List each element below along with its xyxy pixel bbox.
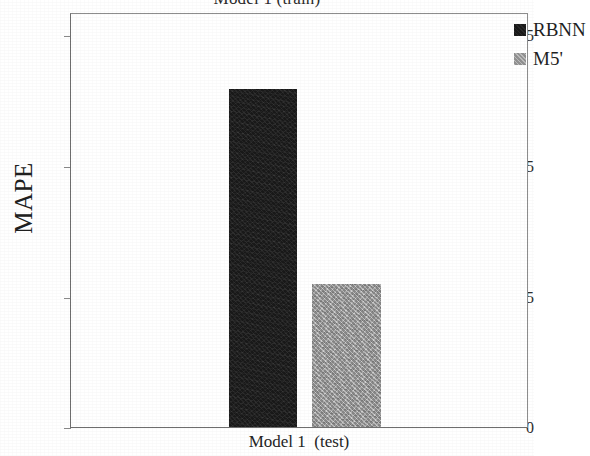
legend-item-rbnn: RBNN [448,15,590,44]
chart-legend: RBNN M5' [448,15,590,73]
x-axis-title: Model 1 (test) [70,432,528,452]
dark-swatch-icon [514,24,526,36]
legend-item-m5-label: M5' [533,49,563,68]
chart-title: Model 1 (train) [0,0,534,9]
bar-m5 [312,284,381,427]
legend-item-rbnn-label: RBNN [533,20,586,39]
legend-item-m5: M5' [448,44,590,73]
bar-rbnn [229,89,297,427]
plot-frame: RBNN M5' [70,13,528,428]
y-axis-tick-mark-0 [64,428,71,429]
y-axis-title: MAPE [10,138,38,258]
gray-swatch-icon [514,53,526,65]
plot-area [71,14,527,427]
